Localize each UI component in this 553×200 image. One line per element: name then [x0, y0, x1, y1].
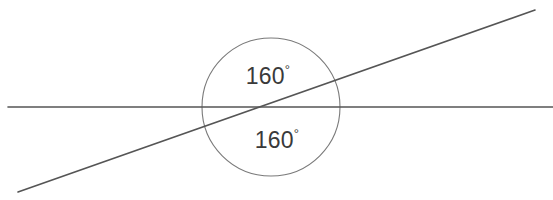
upper-angle-label: 160°: [246, 62, 290, 89]
lower-angle-value: 160: [255, 127, 294, 153]
angle-diagram-figure: 160° 160°: [0, 0, 553, 200]
lower-angle-degree-symbol: °: [294, 126, 299, 141]
diagram-background: [0, 0, 553, 200]
upper-angle-degree-symbol: °: [285, 62, 290, 77]
lower-angle-label: 160°: [255, 126, 299, 153]
diagram-canvas: 160° 160°: [0, 0, 553, 200]
upper-angle-value: 160: [246, 63, 285, 89]
